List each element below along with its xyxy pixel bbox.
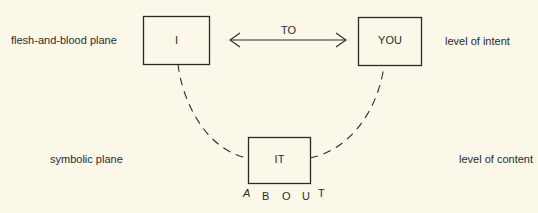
- about-letter-o: O: [282, 190, 291, 202]
- node-i-label: I: [143, 34, 210, 46]
- label-flesh-and-blood-plane: flesh-and-blood plane: [11, 34, 117, 46]
- about-letter-u: U: [302, 190, 310, 202]
- node-you-label: YOU: [358, 34, 422, 46]
- diagram-canvas: [0, 0, 538, 213]
- label-level-of-intent: level of intent: [445, 35, 510, 47]
- node-it-label: IT: [248, 153, 311, 165]
- dashed-arc-right: [310, 66, 384, 158]
- dashed-arc-left: [178, 64, 248, 158]
- about-letter-b: B: [262, 190, 269, 202]
- about-letter-a: A: [243, 187, 250, 199]
- about-letter-t: T: [318, 187, 325, 199]
- label-symbolic-plane: symbolic plane: [50, 153, 123, 165]
- edge-to-label: TO: [281, 24, 296, 36]
- label-level-of-content: level of content: [459, 153, 533, 165]
